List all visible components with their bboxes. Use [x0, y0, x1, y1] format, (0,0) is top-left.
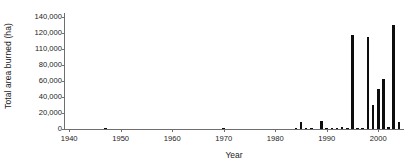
bar [367, 37, 370, 129]
bar [351, 35, 354, 129]
y-axis-tick-labels: 140,000120,000110,00080,00060,00040,0002… [14, 0, 62, 140]
bar [377, 89, 380, 129]
y-axis-tick-label: 110,000 [14, 45, 62, 53]
y-axis-tick-label: 20,000 [14, 109, 62, 117]
y-axis-tick-label: 120,000 [14, 29, 62, 37]
x-axis-tick-label: 1990 [307, 134, 347, 143]
x-axis-tick-label: 1980 [255, 134, 295, 143]
bar [398, 122, 401, 129]
x-axis-title: Year [64, 150, 404, 160]
x-axis-tick-mark [327, 129, 328, 132]
bar [372, 105, 375, 129]
x-axis-tick-mark [275, 129, 276, 132]
x-axis-tick-mark [172, 129, 173, 132]
y-axis-tick-label: 40,000 [14, 93, 62, 101]
x-axis-tick-label: 1970 [204, 134, 244, 143]
y-axis-title-text: Total area burned (ha) [3, 23, 13, 109]
bar-series [64, 17, 404, 129]
x-axis-tick-label: 2000 [358, 134, 398, 143]
y-axis-tick-label: 60,000 [14, 77, 62, 85]
x-axis-tick-label: 1960 [152, 134, 192, 143]
x-axis-tick-label: 1940 [49, 134, 89, 143]
bar [392, 25, 395, 129]
x-axis-tick-label: 1950 [101, 134, 141, 143]
bar-chart-figure: Total area burned (ha) 140,000120,000110… [0, 0, 410, 166]
y-axis-tick-label: 140,000 [14, 13, 62, 21]
x-axis-tick-mark [121, 129, 122, 132]
plot-area [64, 17, 404, 129]
bar [320, 121, 323, 129]
bar [300, 122, 303, 129]
y-axis-tick-label: 0 [14, 125, 62, 133]
x-axis-tick-mark [224, 129, 225, 132]
bar [382, 79, 385, 129]
y-axis-tick-label: 80,000 [14, 61, 62, 69]
x-axis-tick-mark [378, 129, 379, 132]
x-axis-tick-mark [69, 129, 70, 132]
